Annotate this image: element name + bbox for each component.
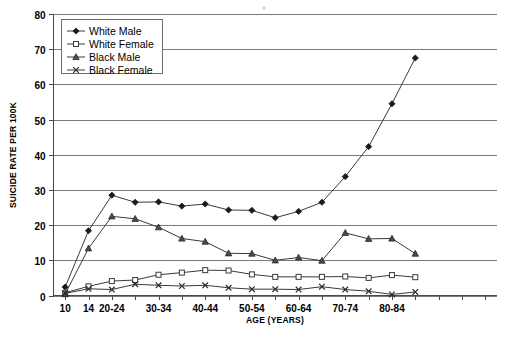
marker-filled-triangle — [179, 235, 185, 241]
y-tick-label: 40 — [34, 151, 46, 162]
chart-legend: White MaleWhite FemaleBlack MaleBlack Fe… — [62, 20, 163, 76]
series-line — [65, 270, 415, 293]
data-point — [179, 270, 184, 275]
marker-filled-triangle — [412, 250, 418, 256]
data-point — [225, 207, 231, 213]
marker-filled-diamond — [249, 207, 255, 213]
marker-filled-triangle — [295, 254, 301, 260]
marker-filled-diamond — [85, 228, 91, 234]
y-tick-label: 10 — [34, 256, 46, 267]
suicide-rate-by-age-chart: 01020304050607080 101420-2430-3440-4450-… — [0, 0, 527, 342]
x-tick-label: 50-54 — [239, 303, 265, 314]
data-point — [156, 272, 161, 277]
data-point — [155, 199, 161, 205]
data-point — [295, 254, 301, 260]
y-tick-label: 70 — [34, 45, 46, 56]
data-point — [295, 208, 301, 214]
x-axis-title: AGE (YEARS) — [246, 315, 304, 325]
data-point — [109, 192, 115, 198]
data-point — [202, 201, 208, 207]
data-point — [179, 203, 185, 209]
legend-label: White Male — [89, 25, 142, 37]
marker-filled-diamond — [272, 215, 278, 221]
marker-open-square — [389, 273, 394, 278]
data-point — [342, 230, 348, 236]
scan-speck-artifact — [262, 6, 265, 9]
y-axis-title: SUICIDE RATE PER 100K — [8, 101, 18, 208]
marker-open-square — [366, 275, 371, 280]
marker-filled-diamond — [225, 207, 231, 213]
marker-open-square — [319, 274, 324, 279]
series-line — [65, 58, 415, 287]
marker-open-square — [249, 272, 254, 277]
x-tick-label: 14 — [83, 303, 95, 314]
legend-label: White Female — [89, 38, 154, 50]
marker-open-square — [109, 279, 114, 284]
chart-canvas: 01020304050607080 101420-2430-3440-4450-… — [0, 0, 527, 342]
marker-filled-diamond — [412, 55, 418, 61]
data-point — [412, 250, 418, 256]
data-point — [85, 228, 91, 234]
marker-open-square — [179, 270, 184, 275]
series-line — [65, 216, 415, 294]
marker-open-square — [296, 274, 301, 279]
y-tick-label: 0 — [40, 292, 46, 303]
marker-open-square — [156, 272, 161, 277]
legend-label: Black Male — [89, 51, 141, 63]
data-point — [203, 268, 208, 273]
marker-open-square — [273, 274, 278, 279]
data-point — [179, 235, 185, 241]
x-tick-label: 10 — [60, 303, 72, 314]
data-point — [249, 272, 254, 277]
marker-filled-diamond — [155, 199, 161, 205]
series-black-female — [62, 281, 418, 297]
marker-open-square — [413, 275, 418, 280]
data-point — [343, 274, 348, 279]
marker-filled-diamond — [295, 208, 301, 214]
marker-filled-triangle — [109, 213, 115, 219]
x-axis-tick-labels: 101420-2430-3440-4450-5460-6470-7480-84 — [60, 303, 406, 314]
data-point — [412, 55, 418, 61]
marker-filled-triangle — [342, 230, 348, 236]
x-tick-label: 30-34 — [146, 303, 172, 314]
marker-open-square — [226, 268, 231, 273]
data-point — [273, 274, 278, 279]
data-point — [272, 215, 278, 221]
data-point — [366, 275, 371, 280]
legend-label: Black Female — [89, 64, 153, 76]
data-point — [109, 279, 114, 284]
x-tick-label: 70-74 — [332, 303, 358, 314]
marker-open-square — [74, 42, 79, 47]
y-tick-label: 20 — [34, 221, 46, 232]
data-point — [226, 268, 231, 273]
x-tick-label: 60-64 — [286, 303, 312, 314]
data-point — [389, 273, 394, 278]
data-point — [389, 101, 395, 107]
marker-open-square — [203, 268, 208, 273]
y-tick-label: 80 — [34, 10, 46, 21]
x-tick-label: 20-24 — [99, 303, 125, 314]
y-tick-label: 30 — [34, 186, 46, 197]
marker-filled-diamond — [109, 192, 115, 198]
x-tick-label: 40-44 — [192, 303, 218, 314]
legend-marker — [74, 42, 79, 47]
marker-filled-diamond — [202, 201, 208, 207]
data-point — [249, 207, 255, 213]
data-point — [109, 213, 115, 219]
series-line — [65, 284, 415, 294]
data-point — [413, 275, 418, 280]
data-point — [296, 274, 301, 279]
marker-open-square — [343, 274, 348, 279]
marker-filled-diamond — [389, 101, 395, 107]
series-white-male — [62, 55, 418, 290]
marker-filled-diamond — [179, 203, 185, 209]
x-tick-label: 80-84 — [379, 303, 405, 314]
marker-filled-diamond — [132, 199, 138, 205]
data-point — [319, 274, 324, 279]
y-tick-label: 50 — [34, 116, 46, 127]
y-axis-tick-labels: 01020304050607080 — [34, 10, 46, 303]
y-tick-label: 60 — [34, 80, 46, 91]
data-point — [132, 199, 138, 205]
